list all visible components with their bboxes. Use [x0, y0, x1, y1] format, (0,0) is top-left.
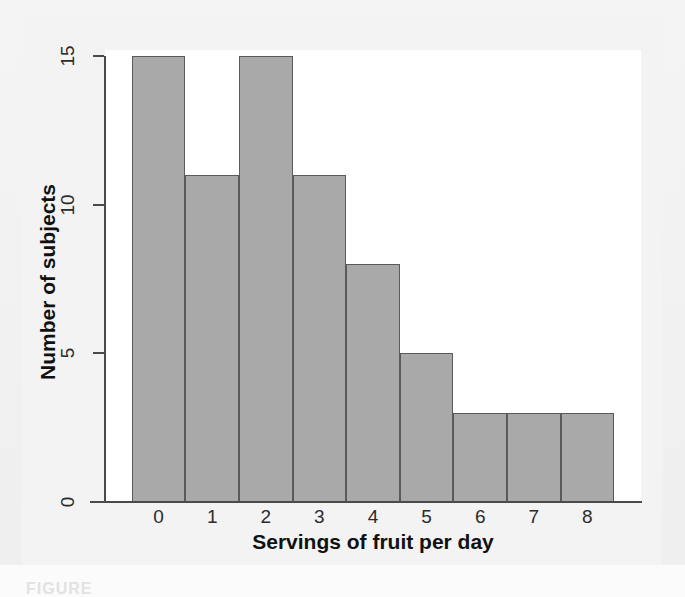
x-tick-label: 1	[183, 506, 241, 528]
figure-caption: FIGURE	[26, 580, 92, 597]
histogram-bar	[400, 353, 454, 502]
x-tick-label: 7	[505, 506, 563, 528]
y-tick-label: 15	[57, 36, 79, 76]
x-tick-label: 0	[130, 506, 188, 528]
x-tick-label: 6	[451, 506, 509, 528]
y-tick-mark	[93, 501, 104, 503]
histogram-bar	[561, 413, 615, 502]
x-tick-label: 8	[558, 506, 616, 528]
figure-page: 051015 012345678 Number of subjects Serv…	[0, 0, 685, 597]
x-axis-title: Servings of fruit per day	[105, 530, 641, 554]
x-tick-label: 5	[398, 506, 456, 528]
x-tick-label: 3	[290, 506, 348, 528]
y-tick-mark	[93, 352, 104, 354]
x-tick-label: 4	[344, 506, 402, 528]
histogram-figure: 051015 012345678 Number of subjects Serv…	[0, 0, 685, 570]
histogram-bar	[132, 56, 186, 502]
histogram-bar	[346, 264, 400, 502]
y-tick-mark	[93, 55, 104, 57]
histogram-bar	[293, 175, 347, 502]
y-axis-title: Number of subjects	[36, 152, 60, 412]
y-tick-label: 5	[57, 333, 79, 373]
histogram-bar	[453, 413, 507, 502]
y-tick-label: 0	[57, 482, 79, 522]
x-tick-label: 2	[237, 506, 295, 528]
y-tick-mark	[93, 204, 104, 206]
y-axis-line	[104, 56, 106, 503]
x-axis-line	[90, 501, 642, 503]
histogram-bar	[239, 56, 293, 502]
histogram-bar	[507, 413, 561, 502]
y-tick-label: 10	[57, 185, 79, 225]
histogram-bar	[185, 175, 239, 502]
